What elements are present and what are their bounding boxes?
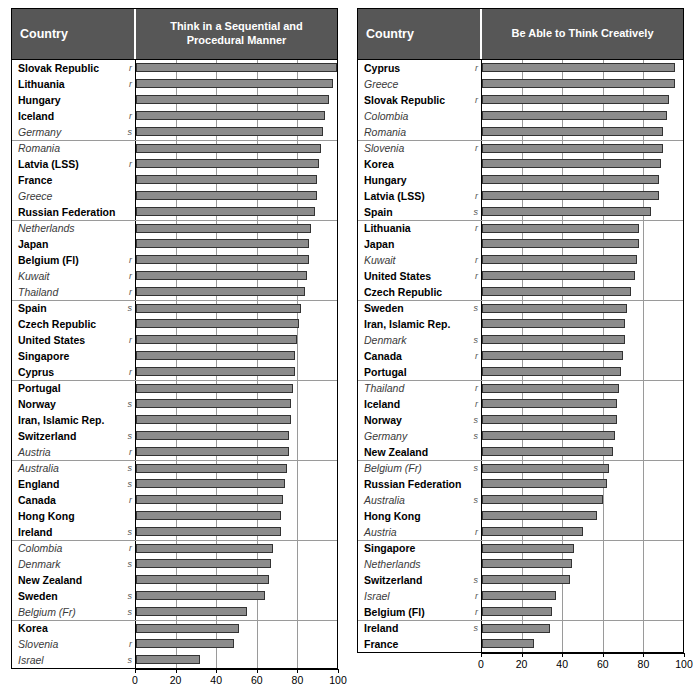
data-quality-flag: r <box>471 384 478 393</box>
axis-tick <box>338 669 339 673</box>
table-row: Netherlands <box>358 556 683 572</box>
country-name: Cyprus <box>18 367 125 378</box>
bar <box>136 639 234 648</box>
bar-cell <box>482 396 683 412</box>
country-cell: Austriar <box>12 444 136 460</box>
data-quality-flag: r <box>125 64 132 73</box>
country-name: Hong Kong <box>364 511 471 522</box>
country-cell: Belgium (Fr)s <box>12 604 136 620</box>
bar <box>482 191 659 200</box>
bar-cell <box>482 461 683 477</box>
bar <box>482 591 556 600</box>
bar-cell <box>136 541 337 557</box>
bar-cell <box>482 221 683 237</box>
chart-body-creative: CyprusrGreeceSlovak RepublicrColombiaRom… <box>357 60 684 653</box>
country-name: Norway <box>364 415 471 426</box>
country-cell: Russian Federation <box>358 476 482 492</box>
country-name: Norway <box>18 399 125 410</box>
data-quality-flag: r <box>125 496 132 505</box>
bar <box>482 207 651 216</box>
table-row: Kuwaitr <box>358 252 683 268</box>
bar <box>136 655 200 664</box>
country-name: United States <box>364 271 471 282</box>
axis-tick-label: 20 <box>170 674 182 686</box>
data-quality-flag: r <box>471 528 478 537</box>
bar-cell <box>136 621 337 637</box>
axis-tick <box>643 653 644 657</box>
bar-cell <box>482 316 683 332</box>
data-quality-flag: s <box>471 336 478 345</box>
country-cell: Colombia <box>358 108 482 124</box>
bar-cell <box>136 476 337 492</box>
table-row: Israelr <box>358 588 683 604</box>
bar-cell <box>482 492 683 508</box>
country-name: Australia <box>364 495 471 506</box>
country-name: Slovenia <box>364 143 471 154</box>
table-row: France <box>12 172 337 188</box>
table-row: Australias <box>12 460 337 476</box>
bar-cell <box>136 268 337 284</box>
table-row: Spains <box>358 204 683 220</box>
table-row: Korea <box>12 620 337 636</box>
bar-cell <box>136 556 337 572</box>
data-quality-flag: r <box>471 352 478 361</box>
bar-cell <box>482 141 683 157</box>
country-name: Lithuania <box>18 79 125 90</box>
bar-cell <box>136 412 337 428</box>
bar-cell <box>136 364 337 380</box>
table-row: United Statesr <box>358 268 683 284</box>
table-row: Irelands <box>358 620 683 636</box>
country-cell: Slovak Republicr <box>358 92 482 108</box>
country-cell: Portugal <box>358 364 482 380</box>
data-quality-flag: s <box>125 608 132 617</box>
bar-cell <box>482 268 683 284</box>
bar-cell <box>136 348 337 364</box>
country-name: Cyprus <box>364 63 471 74</box>
bar <box>136 144 321 153</box>
table-row: Cyprusr <box>12 364 337 380</box>
table-row: Belgium (Fr)s <box>358 460 683 476</box>
axis-tick <box>684 653 685 657</box>
country-name: Germany <box>364 431 471 442</box>
chart-body-sequential: Slovak RepublicrLithuaniarHungaryIceland… <box>11 60 338 669</box>
country-name: Iceland <box>18 111 125 122</box>
country-name: Czech Republic <box>364 287 471 298</box>
country-cell: Icelandr <box>12 108 136 124</box>
bar <box>136 464 287 473</box>
bar-cell <box>482 204 683 220</box>
bar-cell <box>136 188 337 204</box>
country-cell: Hungary <box>358 172 482 188</box>
country-cell: Portugal <box>12 381 136 397</box>
country-cell: Australias <box>358 492 482 508</box>
bar-cell <box>136 396 337 412</box>
axis-tick-label: 60 <box>597 658 609 670</box>
table-row: Japan <box>12 236 337 252</box>
bar-cell <box>482 588 683 604</box>
bar <box>482 399 617 408</box>
table-row: France <box>358 636 683 652</box>
bar-cell <box>136 284 337 300</box>
table-row: Switzerlands <box>358 572 683 588</box>
data-quality-flag: s <box>125 528 132 537</box>
bar-cell <box>482 524 683 540</box>
x-axis-creative: 020406080100 <box>481 653 684 675</box>
bar <box>136 304 301 313</box>
data-quality-flag: r <box>471 144 478 153</box>
bar <box>482 144 663 153</box>
country-cell: Denmarks <box>358 332 482 348</box>
country-cell: Romania <box>358 124 482 140</box>
country-cell: Belgium (Fr)s <box>358 461 482 477</box>
bar <box>482 95 669 104</box>
bar-cell <box>136 316 337 332</box>
bar <box>136 255 309 264</box>
bar <box>136 559 271 568</box>
data-quality-flag: r <box>125 80 132 89</box>
country-cell: Swedens <box>358 301 482 317</box>
table-row: Iran, Islamic Rep. <box>358 316 683 332</box>
table-row: Spains <box>12 300 337 316</box>
table-row: Netherlands <box>12 220 337 236</box>
data-quality-flag: r <box>471 64 478 73</box>
table-row: Slovak Republicr <box>358 92 683 108</box>
bar <box>136 575 269 584</box>
table-row: Irelands <box>12 524 337 540</box>
